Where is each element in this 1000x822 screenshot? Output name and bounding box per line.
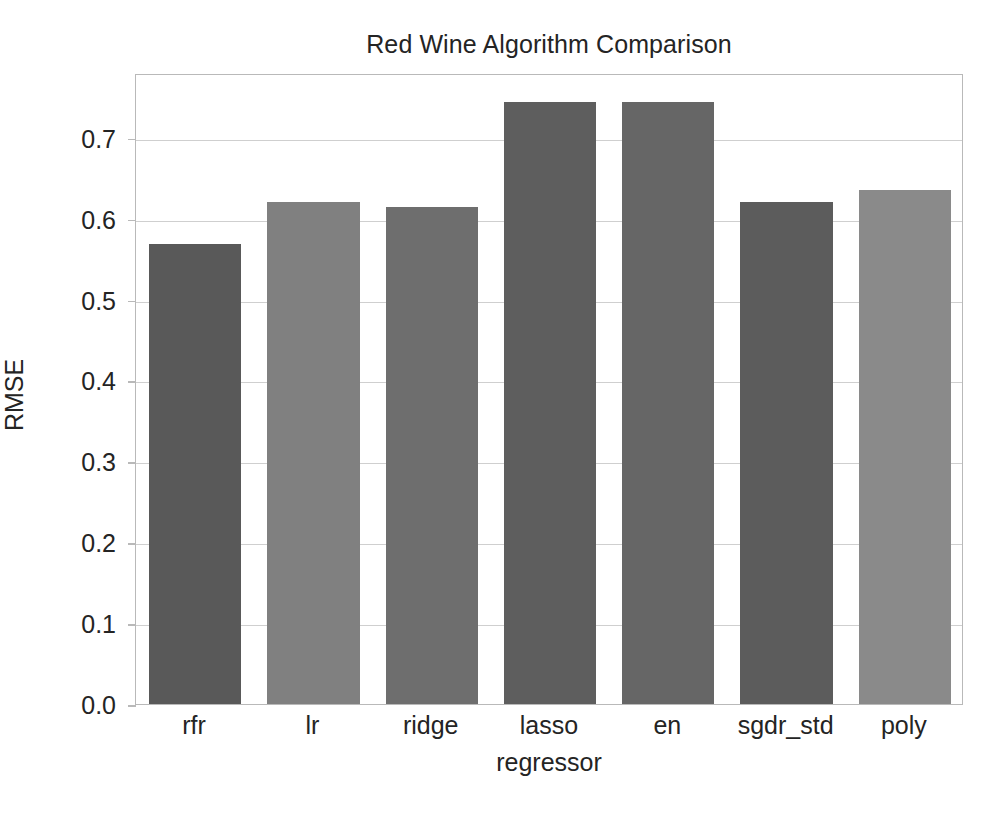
y-axis-tick-label: 0.3 (81, 448, 116, 477)
x-axis-tick-label: sgdr_std (738, 711, 834, 740)
x-axis-tick-label: lasso (520, 711, 578, 740)
y-axis-tick-label: 0.0 (81, 691, 116, 720)
y-axis-tick-label: 0.6 (81, 205, 116, 234)
x-axis-title: regressor (135, 748, 963, 777)
x-axis-tick-label: rfr (182, 711, 206, 740)
bar-poly (859, 190, 951, 704)
bar-ridge (386, 207, 478, 704)
chart-title: Red Wine Algorithm Comparison (135, 30, 963, 59)
bar-lasso (504, 102, 596, 704)
bar-chart-figure: Red Wine Algorithm Comparison 0.00.10.20… (0, 0, 1000, 822)
x-axis-tick-label: en (653, 711, 681, 740)
bar-lr (267, 202, 359, 704)
y-axis-tick-label: 0.7 (81, 124, 116, 153)
x-axis-tick-label: lr (305, 711, 319, 740)
y-axis-tick-mark (128, 705, 136, 707)
bar-en (622, 102, 714, 704)
bars-layer (136, 75, 962, 704)
y-axis-tick-label: 0.2 (81, 529, 116, 558)
x-axis-tick-labels: rfrlrridgelassoensgdr_stdpoly (135, 711, 963, 747)
bar-sgdr_std (740, 202, 832, 704)
plot-area (135, 74, 963, 705)
x-axis-tick-label: poly (881, 711, 927, 740)
y-axis-title: RMSE (0, 359, 29, 431)
y-axis-tick-label: 0.4 (81, 367, 116, 396)
x-axis-tick-label: ridge (403, 711, 459, 740)
y-axis-tick-label: 0.1 (81, 610, 116, 639)
y-axis-tick-label: 0.5 (81, 286, 116, 315)
bar-rfr (149, 244, 241, 704)
